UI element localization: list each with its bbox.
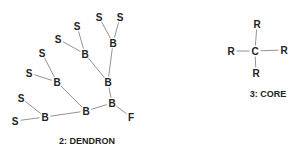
atom-label-r: R [280, 45, 288, 56]
atom-label-r: R [253, 19, 261, 30]
dendron-structure: SSBSSBSSBBSBBBSF [12, 12, 134, 127]
atom-label-b: B [81, 49, 88, 60]
atom-label-b: B [109, 38, 116, 49]
atom-label-b: B [53, 77, 60, 88]
bond-line [109, 87, 111, 97]
atom-label-s: S [74, 21, 81, 32]
atom-label-s: S [117, 12, 124, 23]
bond-line [79, 31, 84, 48]
atom-label-b: B [104, 77, 111, 88]
bond-line [45, 58, 55, 77]
bond-line [260, 50, 278, 51]
bond-line [91, 105, 106, 110]
bond-line [116, 106, 126, 113]
atom-label-s: S [55, 34, 62, 45]
bond-line [63, 42, 80, 52]
bond-line [25, 101, 40, 113]
bond-line [255, 56, 256, 67]
atom-label-b: B [108, 98, 115, 109]
atom-label-f: F [128, 112, 134, 123]
dendron-caption: 2: DENDRON [59, 136, 115, 146]
atom-label-s: S [26, 68, 33, 79]
bond-line [109, 48, 113, 76]
bond-line [102, 22, 111, 38]
bond-line [255, 29, 256, 45]
atom-label-r: R [252, 68, 260, 79]
bond-line [61, 86, 82, 107]
atom-label-b: B [82, 106, 89, 117]
atom-label-s: S [12, 116, 19, 127]
bond-line [20, 118, 39, 121]
atom-label-r: R [227, 46, 235, 57]
bond-line [34, 75, 52, 81]
diagram-canvas: SSBSSBSSBBSBBBSF 2: DENDRON CRRRR 3: COR… [0, 0, 301, 154]
atom-label-c: C [251, 46, 258, 57]
atom-label-s: S [18, 93, 25, 104]
atom-label-s: S [39, 48, 46, 59]
atom-label-s: S [96, 12, 103, 23]
bond-line [114, 22, 118, 37]
bond-line [88, 58, 104, 78]
core-caption: 3: CORE [250, 89, 287, 99]
bond-line [50, 112, 80, 116]
core-structure: CRRRR [227, 19, 288, 79]
atom-label-b: B [41, 112, 48, 123]
